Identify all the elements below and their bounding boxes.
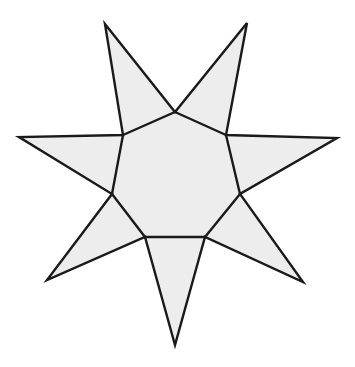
heptagram-figure: Seven-pointed star (heptagram) outline f… <box>0 0 355 367</box>
figure-canvas: Seven-pointed star (heptagram) outline f… <box>0 0 355 367</box>
